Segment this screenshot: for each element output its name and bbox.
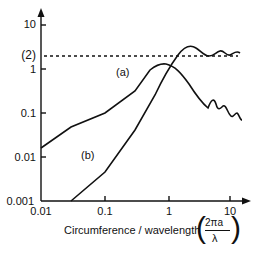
y-tick-2: (2) — [6, 50, 36, 61]
series-a-curve — [41, 64, 242, 148]
series-b-label: (b) — [81, 149, 94, 161]
x-axis-formula: ( 2πa λ ) — [196, 213, 240, 247]
y-tick-1: 1 — [6, 64, 36, 75]
y-tick-0-01: 0.01 — [6, 152, 36, 163]
x-tick-0-1: 0.1 — [90, 206, 120, 217]
y-axis-arrow-icon — [38, 8, 45, 17]
formula-numerator: 2πa — [205, 217, 223, 228]
series-a-label: (a) — [116, 66, 129, 78]
x-axis-title: Circumference / wavelength — [64, 224, 200, 236]
y-axis — [38, 8, 47, 201]
x-tick-1: 1 — [154, 206, 184, 217]
y-tick-10: 10 — [6, 19, 36, 30]
formula-denominator: λ — [212, 232, 218, 244]
y-tick-0-1: 0.1 — [6, 108, 36, 119]
series-b-curve — [71, 46, 240, 201]
x-tick-0-01: 0.01 — [26, 206, 56, 217]
fraction-bar — [205, 230, 230, 231]
x-axis-arrow-icon — [242, 198, 251, 205]
paren-close: ) — [231, 213, 241, 243]
